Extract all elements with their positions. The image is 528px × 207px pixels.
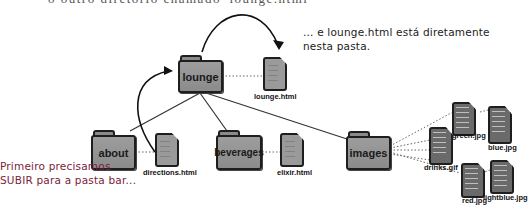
- arrowhead-lounge-html: [273, 40, 284, 50]
- file-icon[interactable]: [280, 133, 304, 167]
- folder-beverages-label: beverages: [216, 135, 262, 170]
- folder-images-label: images: [346, 136, 391, 170]
- file-directions-html-label: directions.html: [143, 168, 197, 177]
- link-images-drinks: [390, 140, 430, 148]
- file-icon[interactable]: [263, 57, 287, 91]
- folder-lounge[interactable]: lounge: [178, 55, 223, 93]
- file-elixir-html-label: elixir.html: [277, 168, 312, 177]
- image-file-icon[interactable]: [461, 163, 485, 198]
- file-green-jpg-label: green.jpg: [452, 131, 486, 140]
- link-green-blue: [480, 110, 488, 112]
- arrowhead-up: [164, 66, 173, 75]
- file-blue-jpg-label: blue.jpg: [488, 143, 517, 152]
- annotation-lounge-html: ... e lounge.html está diretamente nesta…: [303, 25, 503, 53]
- file-lounge-html-label: lounge.html: [254, 92, 297, 101]
- file-drinks-gif-label: drinks.gif: [424, 163, 458, 172]
- image-file-icon[interactable]: [490, 160, 514, 194]
- arrow-to-lounge-html: [202, 15, 278, 52]
- file-icon[interactable]: [155, 133, 179, 167]
- image-file-icon[interactable]: [488, 106, 512, 144]
- folder-lounge-label: lounge: [178, 60, 223, 93]
- link-images-misc: [390, 154, 430, 160]
- file-lightblue-jpg-label: lightblue.jpg: [483, 193, 528, 202]
- folder-beverages[interactable]: beverages: [216, 130, 262, 170]
- annotation-go-up: Primeiro precisamos SUBIR para a pasta b…: [0, 159, 140, 187]
- folder-images[interactable]: images: [346, 131, 391, 170]
- image-file-icon[interactable]: [429, 127, 453, 165]
